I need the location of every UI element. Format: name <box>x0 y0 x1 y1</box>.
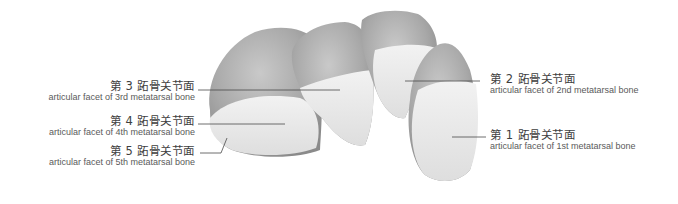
label-facet-4-zh: 第 4 跖骨关节面 <box>0 115 195 128</box>
anatomy-figure: 第 3 跖骨关节面 articular facet of 3rd metatar… <box>0 0 678 204</box>
label-facet-5-en: articular facet of 5th metatarsal bone <box>0 158 195 168</box>
label-facet-2-zh: 第 2 跖骨关节面 <box>490 73 639 86</box>
label-facet-3: 第 3 跖骨关节面 articular facet of 3rd metatar… <box>0 80 195 103</box>
label-facet-1-zh: 第 1 跖骨关节面 <box>490 129 636 142</box>
label-facet-4-en: articular facet of 4th metatarsal bone <box>0 128 195 138</box>
label-facet-3-en: articular facet of 3rd metatarsal bone <box>0 93 195 103</box>
label-facet-3-zh: 第 3 跖骨关节面 <box>0 80 195 93</box>
label-facet-2: 第 2 跖骨关节面 articular facet of 2nd metatar… <box>490 73 639 96</box>
label-facet-1: 第 1 跖骨关节面 articular facet of 1st metatar… <box>490 129 636 152</box>
label-facet-4: 第 4 跖骨关节面 articular facet of 4th metatar… <box>0 115 195 138</box>
label-facet-1-en: articular facet of 1st metatarsal bone <box>490 142 636 152</box>
label-facet-5-zh: 第 5 跖骨关节面 <box>0 145 195 158</box>
label-facet-2-en: articular facet of 2nd metatarsal bone <box>490 86 639 96</box>
label-facet-5: 第 5 跖骨关节面 articular facet of 5th metatar… <box>0 145 195 168</box>
